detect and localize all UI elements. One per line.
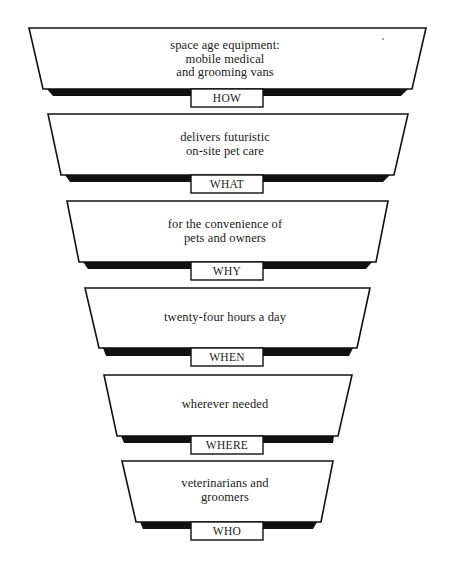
tier-trapezoid <box>48 114 408 175</box>
tier-trapezoid <box>29 28 426 89</box>
tier-trapezoid <box>67 201 388 262</box>
funnel-diagram: space age equipment: mobile medical and … <box>0 0 450 567</box>
tier-trapezoid <box>122 461 333 522</box>
tier-trapezoid <box>85 288 370 348</box>
tier-label-box <box>191 522 263 540</box>
tier-label-box <box>191 262 263 280</box>
tier-label-box <box>191 175 263 193</box>
tier-label-box <box>191 348 263 366</box>
tier-trapezoid <box>104 375 352 436</box>
funnel-shapes <box>0 0 450 567</box>
scan-speck <box>382 38 384 40</box>
tier-label-box <box>191 89 263 107</box>
tier-label-box <box>191 436 263 454</box>
